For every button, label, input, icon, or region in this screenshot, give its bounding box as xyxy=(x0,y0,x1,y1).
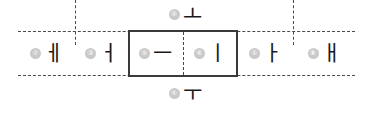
marker-5-icon: ⑤ xyxy=(139,48,150,59)
marker-1-icon: ① xyxy=(249,48,260,59)
vowel-grid-diagram: ⑦ ㅔ ③ ㅓ ⑤ ㅡ ⑥ ㅣ ① ㅏ ⑧ ㅐ ② ㅗ ④ ㅜ xyxy=(0,0,370,115)
cell-i[interactable]: ⑥ ㅣ xyxy=(183,31,238,76)
jamo-a: ㅏ xyxy=(263,43,282,64)
marker-3-icon: ③ xyxy=(85,48,96,59)
marker-4-icon: ④ xyxy=(169,88,180,99)
cell-ae[interactable]: ⑧ ㅐ xyxy=(293,31,355,76)
jamo-ae: ㅐ xyxy=(322,43,341,64)
jamo-eu: ㅡ xyxy=(153,43,172,64)
marker-6-icon: ⑥ xyxy=(194,48,205,59)
jamo-eo: ㅓ xyxy=(99,43,118,64)
cell-eo[interactable]: ③ ㅓ xyxy=(75,31,128,76)
marker-8-icon: ⑧ xyxy=(308,48,319,59)
jamo-o: ㅗ xyxy=(183,4,202,25)
cell-a[interactable]: ① ㅏ xyxy=(238,31,293,76)
jamo-i: ㅣ xyxy=(208,43,227,64)
cell-e[interactable]: ⑦ ㅔ xyxy=(18,31,75,76)
cell-eu[interactable]: ⑤ ㅡ xyxy=(128,31,183,76)
marker-7-icon: ⑦ xyxy=(30,48,41,59)
cell-u[interactable]: ④ ㅜ xyxy=(155,78,215,108)
jamo-e: ㅔ xyxy=(44,43,63,64)
cell-o[interactable]: ② ㅗ xyxy=(155,0,215,29)
jamo-u: ㅜ xyxy=(183,83,202,104)
marker-2-icon: ② xyxy=(169,9,180,20)
